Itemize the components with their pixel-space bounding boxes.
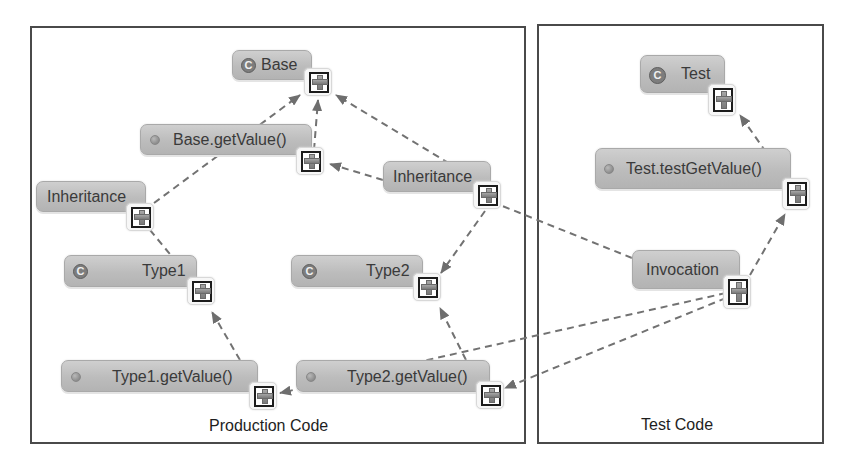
expand-plus-icon[interactable] [473,181,501,209]
class-icon: C [241,58,256,73]
class-icon: C [302,264,317,279]
method-icon [71,372,81,382]
class-icon: C [73,264,88,279]
expand-plus-icon[interactable] [413,273,441,301]
node-label: Invocation [646,261,719,279]
node-label: Type1.getValue() [112,368,233,386]
node-test-test-get-value[interactable]: Test.testGetValue() [595,148,791,189]
method-icon [604,164,614,174]
expand-plus-icon[interactable] [708,84,736,116]
test-code-label: Test Code [641,416,713,434]
expand-plus-icon[interactable] [476,381,504,409]
node-label: Type1 [142,262,186,280]
method-icon [306,372,316,382]
expand-plus-icon[interactable] [126,203,154,231]
node-label: Type2 [366,262,410,280]
production-code-label: Production Code [209,417,328,435]
node-type2-get-value[interactable]: Type2.getValue() [296,360,490,392]
node-label: Base [261,56,297,74]
expand-plus-icon[interactable] [304,68,332,96]
expand-plus-icon[interactable] [296,147,324,175]
node-label: Inheritance [47,188,126,206]
class-icon: C [649,67,666,84]
node-type1[interactable]: C Type1 [64,255,197,287]
node-type2[interactable]: C Type2 [291,255,423,287]
expand-plus-icon[interactable] [723,275,751,309]
expand-plus-icon[interactable] [249,382,277,410]
node-label: Base.getValue() [173,131,287,149]
node-type1-get-value[interactable]: Type1.getValue() [61,360,258,392]
node-label: Test.testGetValue() [626,160,762,178]
node-label: Inheritance [393,168,472,186]
node-base[interactable]: C Base [232,50,312,80]
node-base-get-value[interactable]: Base.getValue() [140,124,312,155]
method-icon [150,135,160,145]
node-label: Test [681,65,710,83]
node-label: Type2.getValue() [347,368,468,386]
expand-plus-icon[interactable] [187,277,215,305]
expand-plus-icon[interactable] [782,178,810,210]
